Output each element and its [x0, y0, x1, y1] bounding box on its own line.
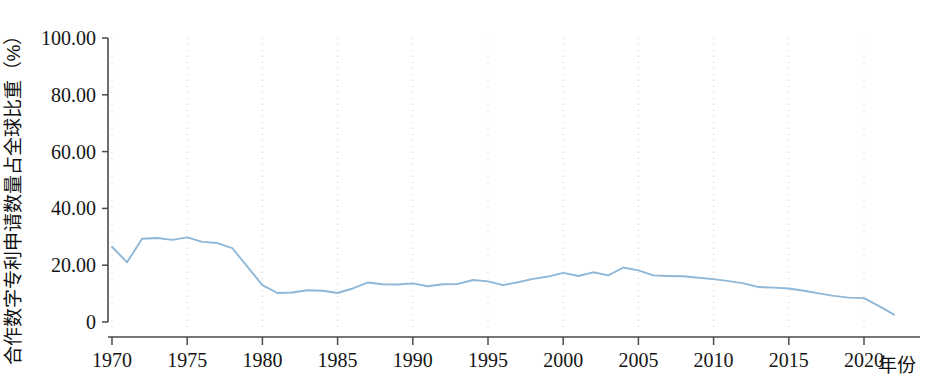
chart-container: 020.0040.0060.0080.00100.00 197019751980…: [0, 0, 927, 382]
y-tick-label: 40.00: [51, 197, 96, 219]
line-chart: 020.0040.0060.0080.00100.00 197019751980…: [0, 0, 927, 382]
y-tick-label: 100.00: [41, 27, 96, 49]
x-tick-label: 2000: [543, 349, 583, 371]
x-tick-label: 1995: [468, 349, 508, 371]
x-tick-label: 1985: [318, 349, 358, 371]
x-tick-label: 2005: [618, 349, 658, 371]
y-tick-label: 20.00: [51, 254, 96, 276]
x-axis-tick-labels: 1970197519801985199019952000200520102015…: [92, 349, 884, 371]
y-axis-ticks: [102, 38, 108, 322]
x-tick-label: 2015: [769, 349, 809, 371]
x-axis-title: 年份: [878, 355, 916, 376]
y-tick-label: 80.00: [51, 84, 96, 106]
y-axis-tick-labels: 020.0040.0060.0080.00100.00: [41, 27, 96, 333]
y-axis-title: 合作数字专利申请数量占全球比重（%）: [3, 26, 24, 366]
y-tick-label: 60.00: [51, 141, 96, 163]
data-series-line: [112, 237, 894, 314]
x-tick-label: 1970: [92, 349, 132, 371]
x-tick-label: 1980: [242, 349, 282, 371]
x-tick-label: 1990: [393, 349, 433, 371]
y-tick-label: 0: [86, 311, 96, 333]
x-tick-label: 1975: [167, 349, 207, 371]
x-axis-ticks: [112, 337, 864, 345]
x-tick-label: 2010: [694, 349, 734, 371]
y-axis-title-text: 合作数字专利申请数量占全球比重（%）: [3, 26, 24, 366]
